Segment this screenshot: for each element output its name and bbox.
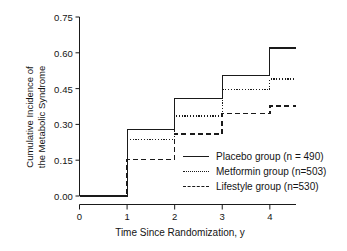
- y-axis-ticks: [76, 17, 80, 196]
- legend-item[interactable]: Metformin group (n=503): [183, 164, 326, 179]
- y-axis-title: Cumulative Incidence of the Metabolic Sy…: [24, 32, 48, 202]
- x-tick-label: 1: [124, 211, 129, 222]
- y-tick-label: 0.75: [40, 12, 73, 23]
- y-axis-title-line1: Cumulative Incidence of: [24, 32, 36, 202]
- legend-line-sample-dotted: [183, 167, 209, 176]
- y-axis-title-line2: the Metabolic Syndrome: [36, 32, 48, 202]
- x-axis-ticks: [80, 205, 270, 210]
- chart-legend: Placebo group (n = 490)Metformin group (…: [183, 149, 326, 194]
- legend-item-label: Placebo group (n = 490): [216, 151, 324, 162]
- legend-item[interactable]: Lifestyle group (n=530): [183, 179, 326, 194]
- legend-item-label: Metformin group (n=503): [216, 166, 326, 177]
- figure-container: 0.000.150.300.450.600.75 01234 Cumulativ…: [0, 0, 347, 251]
- x-tick-label: 3: [220, 211, 225, 222]
- legend-line-sample-dashed: [183, 182, 209, 191]
- x-tick-label: 0: [77, 211, 82, 222]
- legend-item[interactable]: Placebo group (n = 490): [183, 149, 326, 164]
- x-axis-title: Time Since Randomization, y: [60, 227, 300, 238]
- legend-line-sample-solid: [183, 152, 209, 161]
- x-tick-label: 2: [172, 211, 177, 222]
- x-tick-label: 4: [267, 211, 272, 222]
- legend-item-label: Lifestyle group (n=530): [216, 181, 319, 192]
